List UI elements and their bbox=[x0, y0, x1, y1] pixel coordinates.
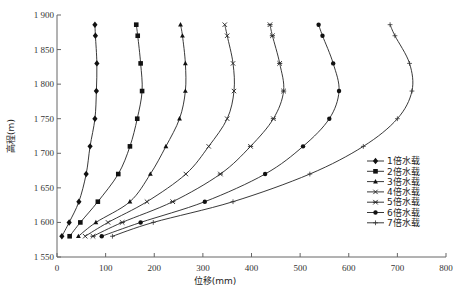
y-tick-label: 1 850 bbox=[34, 45, 55, 55]
legend-label: 4倍水载 bbox=[387, 186, 420, 197]
legend-item-4: 4倍水载 bbox=[367, 186, 420, 197]
legend-item-1: 1倍水载 bbox=[367, 155, 420, 166]
legend-item-2: 2倍水载 bbox=[367, 166, 420, 177]
y-tick-label: 1 650 bbox=[34, 183, 55, 193]
legend-label: 6倍水载 bbox=[387, 207, 420, 218]
legend-item-6: 6倍水载 bbox=[367, 207, 420, 218]
legend: 1倍水载2倍水载3倍水载4倍水载5倍水载6倍水载7倍水载 bbox=[367, 155, 420, 228]
legend-item-5: 5倍水载 bbox=[367, 196, 420, 207]
legend-label: 1倍水载 bbox=[387, 155, 420, 166]
legend-label: 3倍水载 bbox=[387, 176, 420, 187]
x-tick-label: 0 bbox=[55, 263, 60, 273]
series-7 bbox=[110, 22, 414, 238]
x-tick-label: 400 bbox=[245, 263, 259, 273]
chart: 01002003004005006007008001 5501 6001 650… bbox=[0, 0, 464, 297]
y-tick-label: 1 800 bbox=[34, 79, 55, 89]
series-5 bbox=[90, 22, 286, 238]
legend-label: 5倍水载 bbox=[387, 196, 420, 207]
x-tick-label: 800 bbox=[439, 263, 453, 273]
y-tick-label: 1 900 bbox=[34, 10, 55, 20]
y-axis-title: 高程(m) bbox=[5, 119, 16, 153]
y-tick-label: 1 600 bbox=[34, 217, 55, 227]
legend-label: 2倍水载 bbox=[387, 166, 420, 177]
x-axis-title: 位移(mm) bbox=[194, 275, 237, 286]
x-tick-label: 500 bbox=[293, 263, 307, 273]
curves bbox=[59, 21, 414, 239]
x-tick-label: 700 bbox=[391, 263, 405, 273]
y-tick-label: 1 750 bbox=[34, 114, 55, 124]
series-4 bbox=[83, 22, 236, 238]
x-tick-label: 600 bbox=[342, 263, 356, 273]
x-tick-label: 100 bbox=[99, 263, 113, 273]
legend-label: 7倍水载 bbox=[387, 217, 420, 228]
legend-item-7: 7倍水载 bbox=[367, 217, 420, 228]
x-tick-label: 300 bbox=[196, 263, 210, 273]
series-2 bbox=[67, 22, 144, 238]
legend-item-3: 3倍水载 bbox=[367, 176, 420, 187]
x-tick-label: 200 bbox=[148, 263, 162, 273]
axes: 01002003004005006007008001 5501 6001 650… bbox=[5, 10, 453, 286]
y-tick-label: 1 700 bbox=[34, 148, 55, 158]
y-tick-label: 1 550 bbox=[34, 252, 55, 262]
